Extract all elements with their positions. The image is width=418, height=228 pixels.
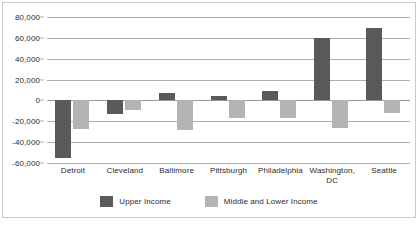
- bar-middle-lower-income: [125, 100, 141, 109]
- x-axis-category-label: Pittsburgh: [203, 166, 255, 192]
- bar-upper-income: [107, 100, 123, 114]
- bar-group: [254, 17, 306, 163]
- x-axis-category-label: Detroit: [47, 166, 99, 192]
- gridline: [47, 163, 410, 164]
- legend-swatch-icon: [100, 196, 113, 207]
- legend-item[interactable]: Upper Income: [100, 196, 170, 207]
- bar-middle-lower-income: [384, 100, 400, 113]
- y-axis-tick-label: 40,000: [15, 54, 40, 63]
- legend-label: Upper Income: [119, 197, 170, 207]
- legend-item[interactable]: Middle and Lower Income: [205, 196, 318, 207]
- y-axis-tick-labels: 80,00060,00040,00020,0000-20,000-40,000-…: [0, 17, 44, 163]
- y-axis-tick-label: 60,000: [15, 33, 40, 42]
- y-axis-tick: [40, 58, 44, 59]
- bar-upper-income: [314, 38, 330, 101]
- y-axis-tick-label: -60,000: [12, 159, 40, 168]
- bar-upper-income: [262, 91, 278, 100]
- bar-upper-income: [159, 93, 175, 100]
- bar-middle-lower-income: [73, 100, 89, 128]
- bar-group: [306, 17, 358, 163]
- bar-middle-lower-income: [280, 100, 296, 118]
- bar-group: [203, 17, 255, 163]
- bar-group: [47, 17, 99, 163]
- bar-group: [358, 17, 410, 163]
- y-axis-tick: [40, 17, 44, 18]
- bar-chart: 80,00060,00040,00020,0000-20,000-40,000-…: [0, 0, 418, 228]
- x-axis-category-label: Seattle: [358, 166, 410, 192]
- bar-group: [151, 17, 203, 163]
- y-axis-tick-label: 80,000: [15, 13, 40, 22]
- y-axis-tick: [40, 142, 44, 143]
- bar-upper-income: [55, 100, 71, 157]
- bar-upper-income: [211, 96, 227, 100]
- bar-middle-lower-income: [177, 100, 193, 129]
- y-axis-tick: [40, 37, 44, 38]
- bar-group: [99, 17, 151, 163]
- plot-area: [47, 17, 410, 163]
- x-axis-category-label: Baltimore: [151, 166, 203, 192]
- bar-upper-income: [366, 28, 382, 100]
- bar-groups: [47, 17, 410, 163]
- legend-swatch-icon: [205, 196, 218, 207]
- y-axis-tick: [40, 100, 44, 101]
- x-axis-category-label: Washington, DC: [306, 166, 358, 192]
- chart-legend: Upper IncomeMiddle and Lower Income: [0, 196, 418, 207]
- y-axis-tick-label: -20,000: [12, 117, 40, 126]
- y-axis-tick: [40, 163, 44, 164]
- y-axis-tick: [40, 121, 44, 122]
- legend-label: Middle and Lower Income: [224, 197, 318, 207]
- x-axis-category-label: Cleveland: [99, 166, 151, 192]
- bar-middle-lower-income: [229, 100, 245, 118]
- bar-middle-lower-income: [332, 100, 348, 127]
- x-axis-category-label: Philadelphia: [254, 166, 306, 192]
- y-axis-tick-label: -40,000: [12, 138, 40, 147]
- y-axis-tick: [40, 79, 44, 80]
- x-axis-category-labels: DetroitClevelandBaltimorePittsburghPhila…: [47, 166, 410, 192]
- y-axis-tick-label: 20,000: [15, 75, 40, 84]
